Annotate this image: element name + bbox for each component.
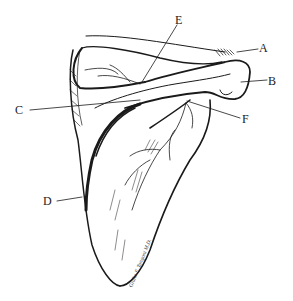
label-e: E	[175, 14, 182, 26]
leader-f	[187, 101, 240, 118]
label-a: A	[259, 42, 268, 54]
leader-a	[237, 49, 258, 52]
scapula-illustration	[0, 0, 293, 301]
leader-b	[241, 80, 267, 82]
leader-c	[30, 100, 140, 110]
label-f: F	[242, 113, 249, 125]
label-d: D	[43, 195, 52, 207]
label-b: B	[268, 75, 276, 87]
leader-d	[57, 197, 82, 201]
label-c: C	[15, 104, 23, 116]
scapula-diagram: A B C D E F Giulio F. Tangoni M.D.	[0, 0, 293, 301]
leader-e	[142, 25, 177, 82]
